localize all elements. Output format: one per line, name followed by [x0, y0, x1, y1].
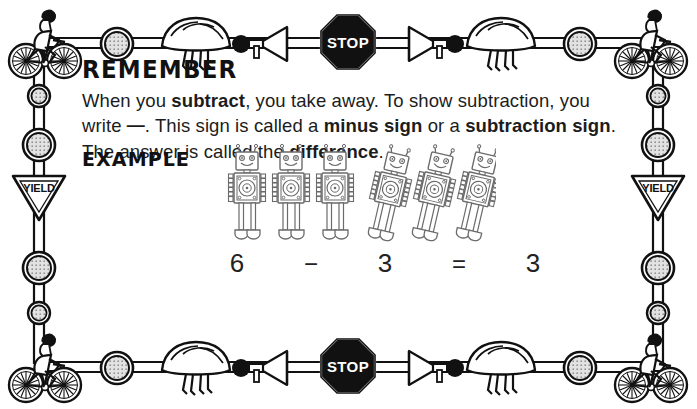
- reflector-left-2: [23, 129, 55, 161]
- robot-falling-2: [405, 143, 462, 243]
- body-segment-1: When you: [82, 90, 171, 111]
- term-subtract: subtract: [171, 90, 245, 111]
- minus-sign-glyph: —: [127, 113, 145, 138]
- equation-minuend: 6: [202, 248, 272, 279]
- yield-sign-right: [632, 176, 684, 220]
- worksheet-page: STOP YIELD: [0, 0, 697, 409]
- body-segment-4: or a: [422, 115, 465, 136]
- body-segment-3: . This sign is called a: [145, 115, 324, 136]
- equation-minus-operator: −: [272, 250, 350, 278]
- reflector-left-4: [28, 302, 50, 324]
- border-rail-top: [46, 38, 651, 48]
- robot-upright-3: [317, 144, 354, 239]
- equation-subtrahend: 3: [350, 248, 420, 279]
- cyclist-top-left: [9, 10, 81, 78]
- equation-row: 6 − 3 = 3: [202, 248, 622, 279]
- term-minus-sign: minus sign: [324, 115, 423, 136]
- equation-difference: 3: [498, 248, 568, 279]
- border-rail-left: [34, 46, 44, 364]
- robot-illustration-group: [226, 134, 496, 244]
- example-label: EXAMPLE: [82, 148, 190, 170]
- reflector-right-3: [642, 252, 674, 284]
- reflector-right-4: [647, 302, 669, 324]
- yield-sign-left: [13, 176, 65, 220]
- reflector-bottom-left: [101, 352, 133, 384]
- reflector-bottom-right: [564, 352, 596, 384]
- reflector-left-1: [28, 85, 50, 107]
- cyclist-bottom-left: [9, 334, 81, 402]
- term-subtraction-sign: subtraction sign: [465, 115, 611, 136]
- page-title: REMEMBER: [82, 56, 631, 83]
- robot-falling-3: [449, 143, 496, 243]
- robot-upright-2: [273, 144, 310, 239]
- border-rail-right: [653, 46, 663, 364]
- robot-upright-1: [229, 144, 266, 239]
- equation-equals-operator: =: [420, 250, 498, 278]
- robot-falling-1: [361, 143, 418, 243]
- lesson-content: REMEMBER When you subtract, you take awa…: [74, 56, 631, 353]
- horn-bottom-left: [232, 351, 287, 385]
- border-rail-bottom: [46, 362, 651, 372]
- horn-bottom-right: [409, 351, 464, 385]
- reflector-right-2: [642, 129, 674, 161]
- reflector-right-1: [647, 85, 669, 107]
- reflector-left-3: [23, 252, 55, 284]
